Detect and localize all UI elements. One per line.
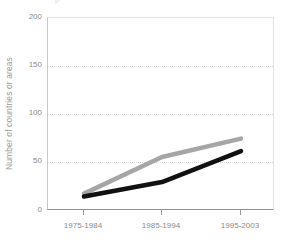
y-tick-label-150: 150 (2, 61, 42, 69)
x-tick-mark-2 (240, 210, 241, 215)
x-tick-label-1: 1985-1994 (121, 221, 201, 230)
plot-area (47, 17, 274, 210)
x-tick-mark-0 (83, 210, 84, 215)
gray-series-line (84, 139, 241, 194)
y-tick-label-200: 200 (2, 13, 42, 21)
x-tick-label-2: 1995-2003 (200, 221, 280, 230)
y-tick-label-100: 100 (2, 109, 42, 117)
y-tick-label-50: 50 (2, 157, 42, 165)
y-tick-label-0: 0 (2, 206, 42, 214)
x-tick-mark-1 (161, 210, 162, 215)
series-lines (48, 18, 275, 211)
y-axis-tick-labels: 200 150 100 50 0 (0, 0, 42, 244)
line-chart: р Number of countries or areas 200 150 1… (0, 0, 291, 244)
clipped-title-fragment: р (55, 0, 95, 4)
x-tick-label-0: 1975-1984 (43, 221, 123, 230)
